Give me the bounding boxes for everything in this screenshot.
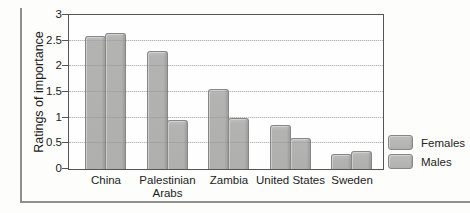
bar-males-china [105,33,126,169]
page-left-rule [20,8,22,202]
gridline-overlay-1.5 [69,91,383,92]
legend-item-females: Females [388,135,465,150]
bar-females-united-states [270,125,291,169]
y-tick-label-1: 1 [28,110,62,124]
gridline-overlay-2 [69,65,383,66]
y-tick-label-0.5: 0.5 [28,135,62,149]
y-tick-mark-0 [62,168,68,169]
y-tick-label-2: 2 [28,58,62,72]
y-tick-mark-2.5 [62,40,68,41]
chart-legend: Females Males [388,135,465,173]
bar-females-zambia [208,89,229,169]
page-bottom-rule [20,201,470,203]
gridline-overlay-0.5 [69,142,383,143]
gridline-overlay-2.5 [69,40,383,41]
males-swatch-icon [388,154,413,169]
legend-item-males: Males [388,154,465,169]
bar-females-sweden [331,154,352,169]
bar-females-palestinian-arabs [147,51,168,169]
bar-males-sweden [351,151,372,169]
y-tick-label-2.5: 2.5 [28,33,62,47]
y-tick-label-0: 0 [28,161,62,175]
y-tick-label-1.5: 1.5 [28,84,62,98]
y-tick-mark-1 [62,117,68,118]
y-tick-mark-3 [62,14,68,15]
legend-label-males: Males [421,156,452,168]
y-tick-mark-0.5 [62,142,68,143]
y-tick-mark-2 [62,65,68,66]
females-swatch-icon [388,135,413,150]
legend-label-females: Females [421,137,465,149]
y-tick-label-3: 3 [28,7,62,21]
y-tick-mark-1.5 [62,91,68,92]
bar-females-china [85,36,106,169]
plot-area [68,14,384,170]
figure-page: Ratings of importance 00.511.522.53China… [0,0,470,213]
bar-males-palestinian-arabs [167,120,188,169]
x-category-label-sweden: Sweden [315,174,389,187]
gridline-overlay-1 [69,117,383,118]
